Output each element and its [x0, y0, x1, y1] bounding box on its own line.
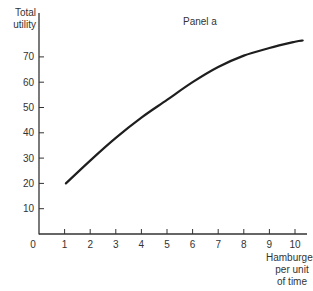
x-tick-label: 1 — [62, 239, 68, 250]
y-axis-label: Total utility — [4, 7, 36, 31]
y-tick-label: 70 — [23, 51, 35, 62]
x-tick-label: 4 — [139, 239, 145, 250]
y-tick-label: 20 — [23, 178, 35, 189]
origin-label: 0 — [30, 239, 36, 250]
y-tick-label: 30 — [23, 153, 35, 164]
x-axis-label-line1: Hamburgers — [266, 252, 313, 264]
chart-title: Panel a — [183, 16, 217, 28]
x-tick-label: 5 — [164, 239, 170, 250]
total-utility-curve — [66, 41, 303, 184]
x-tick-label: 3 — [113, 239, 119, 250]
y-axis-label-line2: utility — [4, 19, 36, 31]
x-axis-label-line3: of time — [266, 276, 313, 288]
x-tick-label: 6 — [190, 239, 196, 250]
x-tick-label: 10 — [289, 239, 301, 250]
x-axis-label-line2: per unit — [266, 264, 313, 276]
y-tick-label: 40 — [23, 127, 35, 138]
x-tick-label: 9 — [267, 239, 273, 250]
y-tick-label: 60 — [23, 77, 35, 88]
x-axis-label: Hamburgers per unit of time — [266, 252, 313, 288]
plot-area: 10203040506070012345678910 — [0, 0, 313, 291]
x-tick-label: 7 — [215, 239, 221, 250]
ticks: 10203040506070012345678910 — [23, 51, 301, 250]
x-tick-label: 8 — [241, 239, 247, 250]
axes — [39, 13, 307, 235]
x-tick-label: 2 — [87, 239, 93, 250]
y-axis-label-line1: Total — [4, 7, 36, 19]
y-tick-label: 10 — [23, 203, 35, 214]
y-tick-label: 50 — [23, 102, 35, 113]
total-utility-chart: 10203040506070012345678910 Total utility… — [0, 0, 313, 291]
